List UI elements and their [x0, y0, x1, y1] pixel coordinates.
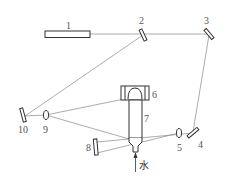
- beam-10-to-9: [25, 115, 46, 116]
- lens-9: [44, 111, 49, 120]
- label-lens-5: 5: [177, 142, 182, 153]
- lens-5: [177, 129, 182, 138]
- label-mirror-3: 3: [204, 15, 209, 26]
- label-water: 水: [139, 160, 149, 171]
- laser-component: [45, 31, 90, 38]
- beam-2-to-10: [25, 35, 143, 116]
- mirror-8: [93, 139, 98, 155]
- beam-9-to-6: [46, 99, 124, 115]
- label-mirror-10: 10: [18, 124, 28, 135]
- mirror-10: [20, 108, 27, 122]
- label-laser: 1: [66, 20, 71, 31]
- mirror-2: [139, 29, 147, 41]
- optical-diagram: 1 2 3 4 5 6 7 8 9 10 水: [0, 0, 228, 182]
- label-lens-9: 9: [43, 124, 48, 135]
- tube-7: [129, 100, 142, 152]
- label-mirror-8: 8: [86, 142, 91, 153]
- mirror-4: [187, 127, 199, 138]
- beam-9-to-7: [46, 115, 136, 141]
- label-mirror-2: 2: [139, 15, 144, 26]
- element-6: [121, 86, 149, 100]
- label-element-6: 6: [152, 89, 157, 100]
- label-tube-7: 7: [144, 113, 149, 124]
- label-mirror-4: 4: [198, 139, 203, 150]
- beam-3-to-4: [193, 35, 209, 132]
- water-inlet-arrow: [134, 152, 138, 172]
